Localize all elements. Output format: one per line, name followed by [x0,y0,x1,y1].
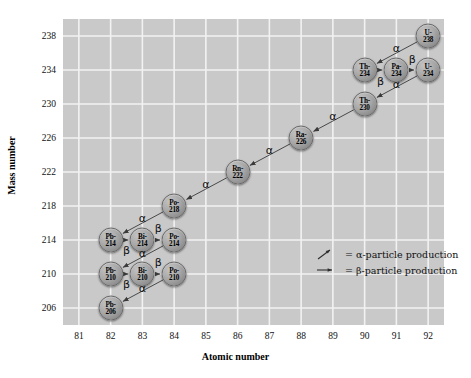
nuclide-node: Po-214 [162,228,187,253]
x-tick-label: 81 [74,331,84,341]
x-tick-label: 85 [201,331,211,341]
x-tick-label: 88 [296,331,306,341]
decay-label-beta: β [409,52,416,65]
nuclide-node: Th-230 [352,92,377,117]
x-tick-label: 92 [423,331,433,341]
decay-label-alpha: α [266,143,273,156]
legend-label-alpha: = α-particle production [345,249,458,260]
legend-label-beta: = β-particle production [345,265,457,276]
nuclide-mass: 218 [169,206,179,213]
nuclide-node: Po-218 [162,194,187,219]
decay-label-alpha: α [393,78,400,91]
decay-label-beta: β [155,222,162,235]
decay-series-figure: U-238Th-234Pa-234U-234Th-230Ra-226Rn-222… [0,0,471,378]
x-tick-label: 90 [360,331,370,341]
decay-label-beta: β [155,256,162,269]
nuclide-node: Pb-206 [98,296,123,321]
x-tick-label: 84 [169,331,179,341]
nuclide-mass: 214 [106,240,116,247]
nuclide-mass: 234 [423,70,433,77]
x-tick-label: 87 [265,331,275,341]
legend: = α-particle production = β-particle pro… [315,246,458,278]
x-axis-title: Atomic number [0,351,471,362]
decay-label-beta: β [377,75,384,88]
x-tick-label: 91 [392,331,402,341]
nuclide-node: U-238 [416,24,441,49]
decay-label-alpha: α [139,281,146,294]
y-axis-title: Mass number [6,111,17,221]
horizontal-arrow-icon [315,263,341,277]
nuclide-mass: 230 [360,104,370,111]
decay-label-alpha: α [393,41,400,54]
y-tick-label: 230 [22,99,56,109]
nuclide-mass: 210 [137,274,147,281]
nuclide-node: Po-210 [162,262,187,287]
nuclide-mass: 234 [360,70,370,77]
nuclide-node: Ra-226 [289,126,314,151]
diagonal-arrow-icon [315,247,341,261]
decay-label-alpha: α [139,211,146,224]
legend-item-beta: = β-particle production [315,262,458,278]
nuclide-node: Pb-214 [98,228,123,253]
x-tick-label: 86 [233,331,243,341]
nuclide-mass: 222 [233,172,243,179]
x-tick-label: 83 [138,331,148,341]
y-tick-label: 226 [22,133,56,143]
nuclide-node: Rn-222 [225,160,250,185]
decay-label-beta: β [123,244,130,257]
nuclide-node: Pb-210 [98,262,123,287]
y-tick-label: 222 [22,167,56,177]
decay-label-alpha: α [202,177,209,190]
nuclide-node: Th-234 [352,58,377,83]
decay-label-beta: β [123,278,130,291]
y-tick-label: 214 [22,235,56,245]
nuclide-mass: 234 [391,70,401,77]
plot-panel: U-238Th-234Pa-234U-234Th-230Ra-226Rn-222… [63,19,444,325]
y-tick-label: 234 [22,65,56,75]
x-tick-label: 82 [106,331,116,341]
decay-label-alpha: α [139,246,146,259]
x-tick-label: 89 [328,331,338,341]
nuclide-node: U-234 [416,58,441,83]
y-tick-label: 206 [22,303,56,313]
y-tick-label: 218 [22,201,56,211]
nuclide-mass: 238 [423,36,433,43]
y-tick-label: 238 [22,31,56,41]
nuclide-mass: 226 [296,138,306,145]
nuclide-mass: 206 [106,308,116,315]
legend-item-alpha: = α-particle production [315,246,458,262]
nuclide-mass: 210 [106,274,116,281]
decay-label-alpha: α [329,109,336,122]
y-tick-label: 210 [22,269,56,279]
nuclide-mass: 210 [169,274,179,281]
nuclide-mass: 214 [169,240,179,247]
